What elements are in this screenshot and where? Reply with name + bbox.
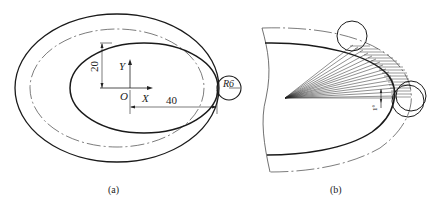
dim-20-arrow-bottom-icon [101,83,104,88]
x-axis-arrow-icon [147,86,153,90]
radial-fan [285,45,396,98]
diagram-canvas: 20 Y O X 40 R6 (a) [0,0,437,205]
angle-label: 1° [371,105,379,112]
y-axis-label: Y [119,60,127,72]
caption-b: (b) [330,184,342,196]
dim-20-label: 20 [88,61,100,73]
panel-a: 20 Y O X 40 R6 (a) [15,14,241,196]
panel-b: 1° (b) [262,21,426,196]
x-axis-label: X [141,92,150,104]
dim-40-arrow-left-icon [130,106,135,109]
dim-40-label: 40 [166,94,178,106]
break-line [262,28,270,172]
tool-circle-top [337,21,367,51]
origin-label: O [120,90,128,102]
y-axis-arrow-icon [128,59,132,65]
caption-a: (a) [108,184,119,196]
inner-contour [265,43,395,155]
angle-arrow-bottom-icon [380,99,382,103]
radius-label: R6 [222,78,234,89]
dim-20-arrow-top-icon [101,43,104,48]
